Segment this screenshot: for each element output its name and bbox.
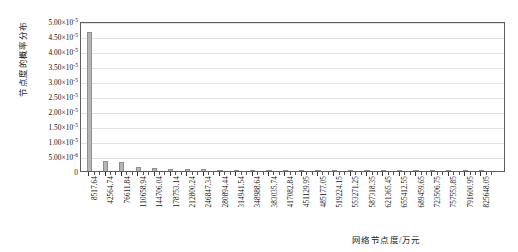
- x-tick-minor: [148, 172, 149, 175]
- x-tick-minor: [115, 172, 116, 175]
- bar: [397, 170, 402, 171]
- bar: [152, 168, 157, 171]
- x-tick-minor: [94, 172, 95, 175]
- x-tick-label: 110658.94: [140, 176, 148, 207]
- y-tick-label: 2.00×10-5: [48, 107, 78, 117]
- bar: [364, 170, 369, 171]
- y-tick-label: 4.00×10-5: [48, 47, 78, 57]
- plot-area: [80, 22, 505, 172]
- x-tick-minor: [491, 172, 492, 175]
- y-tick-label: 3.00×10-5: [48, 77, 78, 87]
- bar-series: [81, 23, 504, 171]
- x-tick-minor: [110, 172, 111, 175]
- x-tick-minor: [164, 172, 165, 175]
- x-tick-minor: [486, 172, 487, 175]
- x-tick-label: 485177.05: [320, 176, 328, 207]
- x-tick-label: 144706.04: [156, 176, 164, 207]
- x-tick-minor: [442, 172, 443, 175]
- x-tick-minor: [388, 172, 389, 175]
- bar: [446, 170, 451, 171]
- x-tick-label: 655412.55: [401, 176, 409, 207]
- x-tick-minor: [213, 172, 214, 175]
- x-tick-minor: [355, 172, 356, 175]
- x-tick-minor: [192, 172, 193, 175]
- y-tick-label: 1.50×10-5: [48, 122, 78, 132]
- bar: [185, 169, 190, 171]
- x-tick-minor: [197, 172, 198, 175]
- x-tick-minor: [143, 172, 144, 175]
- x-tick-minor: [306, 172, 307, 175]
- x-tick-minor: [372, 172, 373, 175]
- bar: [348, 170, 353, 171]
- x-tick-minor: [475, 172, 476, 175]
- x-tick-minor: [322, 172, 323, 175]
- x-tick-minor: [99, 172, 100, 175]
- bar: [250, 170, 255, 171]
- x-tick-label: 587318.35: [369, 176, 377, 207]
- x-tick-minor: [181, 172, 182, 175]
- bar: [463, 170, 468, 171]
- x-tick-minor: [312, 172, 313, 175]
- x-tick-minor: [339, 172, 340, 175]
- x-tick-label: 42564.74: [107, 176, 115, 204]
- x-tick-minor: [224, 172, 225, 175]
- x-tick-minor: [470, 172, 471, 175]
- x-tick-label: 348988.64: [254, 176, 262, 207]
- bar: [430, 170, 435, 171]
- x-tick-minor: [328, 172, 329, 175]
- x-tick-minor: [208, 172, 209, 175]
- y-tick-label: 4.50×10-5: [48, 32, 78, 42]
- x-tick-label: 417082.84: [287, 176, 295, 207]
- x-tick-minor: [257, 172, 258, 175]
- bar: [217, 170, 222, 171]
- bar: [87, 32, 92, 171]
- y-tick-label: 2.50×10-5: [48, 92, 78, 102]
- x-tick-label: 246847.34: [205, 176, 213, 207]
- y-tick-label: 1.00×10-5: [48, 137, 78, 147]
- bar: [119, 162, 124, 171]
- bar: [332, 170, 337, 171]
- bar: [168, 169, 173, 171]
- x-tick-label: 314941.54: [238, 176, 246, 207]
- x-tick-minor: [361, 172, 362, 175]
- x-tick-label: 383035.74: [271, 176, 279, 207]
- x-tick-minor: [290, 172, 291, 175]
- x-tick-minor: [273, 172, 274, 175]
- y-tick-label: 3.50×10-5: [48, 62, 78, 72]
- bar: [136, 167, 141, 171]
- x-axis-tick-labels: 8517.6442564.7476611.84110658.94144706.0…: [80, 176, 505, 236]
- x-tick-minor: [344, 172, 345, 175]
- x-tick-minor: [437, 172, 438, 175]
- x-tick-minor: [426, 172, 427, 175]
- bar: [381, 170, 386, 171]
- x-tick-label: 621365.45: [385, 176, 393, 207]
- y-axis-tick-labels: 05.00×10-61.00×10-51.50×10-52.00×10-52.5…: [20, 0, 78, 252]
- x-tick-label: 212800.24: [189, 176, 197, 207]
- y-tick-label: 0: [74, 168, 78, 177]
- bar: [266, 170, 271, 171]
- x-tick-label: 825648.05: [483, 176, 491, 207]
- x-tick-minor: [295, 172, 296, 175]
- x-tick-minor: [279, 172, 280, 175]
- x-tick-minor: [159, 172, 160, 175]
- bar: [413, 170, 418, 171]
- x-tick-minor: [459, 172, 460, 175]
- bar: [299, 170, 304, 171]
- x-tick-minor: [404, 172, 405, 175]
- x-tick-minor: [377, 172, 378, 175]
- chart-canvas: 节点度的概率分布 05.00×10-61.00×10-51.50×10-52.0…: [0, 0, 518, 252]
- bar: [234, 170, 239, 171]
- bar: [283, 170, 288, 171]
- x-tick-label: 178753.14: [173, 176, 181, 207]
- bar: [315, 170, 320, 171]
- bar: [201, 169, 206, 171]
- x-tick-minor: [263, 172, 264, 175]
- bar: [479, 170, 484, 171]
- x-tick-minor: [175, 172, 176, 175]
- x-tick-minor: [421, 172, 422, 175]
- x-tick-label: 791600.95: [467, 176, 475, 207]
- x-axis-title: 网络节点度/万元: [352, 233, 421, 245]
- x-tick-label: 553271.25: [352, 176, 360, 207]
- x-tick-minor: [393, 172, 394, 175]
- x-tick-label: 76611.84: [124, 176, 132, 204]
